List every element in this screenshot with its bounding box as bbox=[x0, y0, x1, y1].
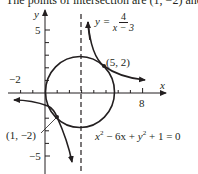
point-label-1-neg2: (1, −2) bbox=[6, 130, 36, 141]
y-axis-label: y bbox=[34, 9, 39, 20]
y-tick-label-neg5: −5 bbox=[29, 151, 41, 162]
circle-eq-end: + 1 = 0 bbox=[146, 130, 180, 142]
circle-eq-mid: − 6x + bbox=[103, 130, 137, 142]
point-label-5-2: (5, 2) bbox=[106, 57, 130, 68]
y-tick-label-5: 5 bbox=[35, 25, 41, 36]
x-axis-label: x bbox=[160, 80, 165, 91]
hyperbola-left-branch bbox=[48, 106, 72, 162]
hyperbola-eq-lhs: y = bbox=[95, 15, 110, 27]
hyperbola-equation-label: y = 4 x − 3 bbox=[95, 12, 134, 33]
x-ticks bbox=[21, 88, 143, 93]
x-tick-label-8: 8 bbox=[139, 98, 145, 109]
circle-equation-label: x2 − 6x + y2 + 1 = 0 bbox=[95, 128, 181, 142]
hyperbola-fraction: 4 x − 3 bbox=[113, 12, 134, 33]
hyperbola-denominator: x − 3 bbox=[113, 23, 134, 33]
hyperbola-left-branch-tail bbox=[14, 100, 48, 106]
x-tick-label-neg2: −2 bbox=[9, 74, 21, 85]
